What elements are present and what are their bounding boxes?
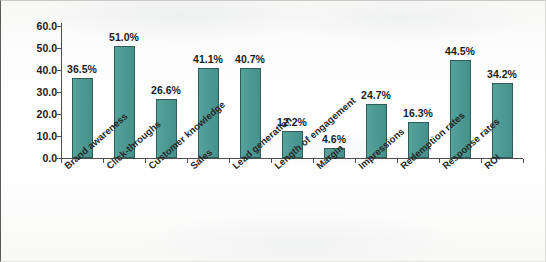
bar-value-label: 36.5%	[67, 63, 97, 75]
y-tick-label: 20.0	[23, 108, 57, 120]
y-tick-label: 0.0	[23, 152, 57, 164]
y-tick-label: 10.0	[23, 130, 57, 142]
y-tick-label: 50.0	[23, 42, 57, 54]
y-tick-label: 30.0	[23, 86, 57, 98]
y-axis-line	[61, 23, 62, 158]
bar-value-label: 41.1%	[193, 53, 223, 65]
bar-value-label: 34.2%	[487, 68, 517, 80]
bar-value-label: 24.7%	[361, 89, 391, 101]
y-tick-label: 60.0	[23, 20, 57, 32]
y-tick-mark	[57, 92, 61, 93]
bar-value-label: 4.6%	[322, 133, 346, 145]
y-tick-mark	[57, 70, 61, 71]
y-tick-mark	[57, 26, 61, 27]
y-tick-mark	[57, 114, 61, 115]
bar-value-label: 40.7%	[235, 53, 265, 65]
bar-value-label: 51.0%	[109, 31, 139, 43]
bar-value-label: 44.5%	[445, 45, 475, 57]
bar-value-label: 26.6%	[151, 84, 181, 96]
y-tick-label: 40.0	[23, 64, 57, 76]
bar-value-label: 16.3%	[403, 107, 433, 119]
y-tick-mark	[57, 48, 61, 49]
plot-area: 36.5%51.0%26.6%41.1%40.7%12.2%4.6%24.7%1…	[61, 26, 523, 158]
y-tick-mark	[57, 136, 61, 137]
x-axis-category-labels: Brand awarenessClick-throughsCustomer kn…	[61, 163, 546, 262]
y-axis-tick-labels: 60.050.040.030.020.010.00.0	[17, 1, 57, 262]
bar-chart-figure: Percent (%) 60.050.040.030.020.010.00.0 …	[0, 0, 546, 262]
